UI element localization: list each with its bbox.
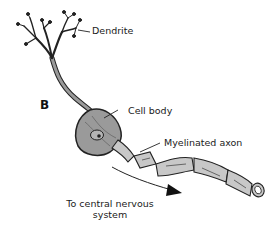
label-direction: To central nervous system [60, 199, 160, 221]
axon-leader [140, 143, 160, 152]
nucleus [91, 130, 104, 140]
label-direction-line2: system [60, 210, 160, 221]
panel-letter: B [40, 98, 49, 112]
neuron-diagram: Dendrite Cell body Myelinated axon To ce… [0, 0, 273, 228]
label-cell-body: Cell body [128, 106, 172, 117]
label-myelinated-axon: Myelinated axon [164, 138, 242, 149]
label-dendrite: Dendrite [92, 26, 133, 37]
dendrite-leader [78, 30, 90, 32]
dendrite-tree [17, 11, 93, 113]
nucleolus [97, 134, 101, 138]
